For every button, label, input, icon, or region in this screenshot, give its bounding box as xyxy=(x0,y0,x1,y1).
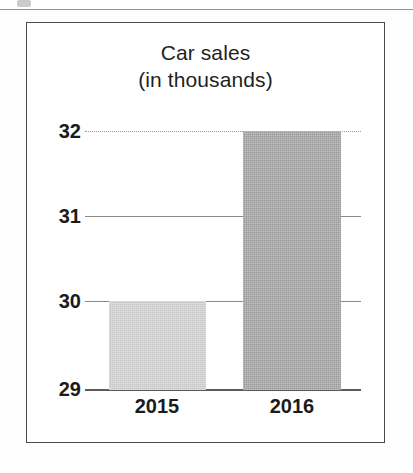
chart-frame: Car sales (in thousands) 32 31 30 29 201… xyxy=(26,22,385,443)
ytick-label-31: 31 xyxy=(37,206,81,226)
bar-2016[interactable] xyxy=(243,131,341,390)
ytick-label-30: 30 xyxy=(37,291,81,311)
xtick-label-2016: 2016 xyxy=(242,395,342,417)
scanned-page: Car sales (in thousands) 32 31 30 29 201… xyxy=(0,0,413,473)
scan-artifact-speck xyxy=(17,0,31,7)
plot-area: 32 31 30 29 2015 2016 xyxy=(27,23,384,442)
ytick-label-29: 29 xyxy=(37,379,81,399)
bar-2015[interactable] xyxy=(109,301,206,390)
xtick-label-2015: 2015 xyxy=(107,395,207,417)
ytick-label-32: 32 xyxy=(37,121,81,141)
page-horizontal-rule xyxy=(0,9,413,10)
